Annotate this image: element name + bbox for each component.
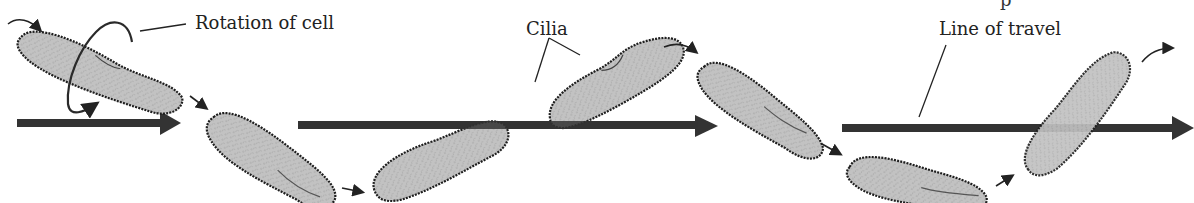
paramecium-cell-7 <box>1010 44 1146 185</box>
path-arrow-1-icon <box>190 96 206 108</box>
path-arrow-4-icon <box>822 144 840 154</box>
paramecium-swimming-diagram: Rotation of cell Cilia Line of travel p <box>0 0 1194 203</box>
travel-leader-line <box>919 45 946 117</box>
rotation-leader-line <box>140 24 186 31</box>
line-of-travel-label: Line of travel <box>939 20 1061 38</box>
path-arrow-5-icon <box>996 176 1012 186</box>
exit-curve-arrow-icon <box>1142 48 1172 62</box>
truncated-top-text: p <box>1000 0 1012 9</box>
rotation-of-cell-label: Rotation of cell <box>195 14 334 32</box>
paramecium-cell-6 <box>843 152 990 203</box>
travel-arrow-3 <box>842 116 1194 140</box>
entry-curve-arrow-icon <box>8 20 40 30</box>
path-arrow-2-icon <box>342 188 362 192</box>
cilia-label: Cilia <box>526 20 568 38</box>
paramecium-cell-1 <box>10 23 189 122</box>
travel-arrow-2-overlay <box>298 121 698 129</box>
travel-arrow-1 <box>17 111 181 135</box>
cilia-leader-lines <box>535 38 580 82</box>
paramecium-cell-2 <box>196 103 347 203</box>
paramecium-cell-5 <box>688 53 835 167</box>
